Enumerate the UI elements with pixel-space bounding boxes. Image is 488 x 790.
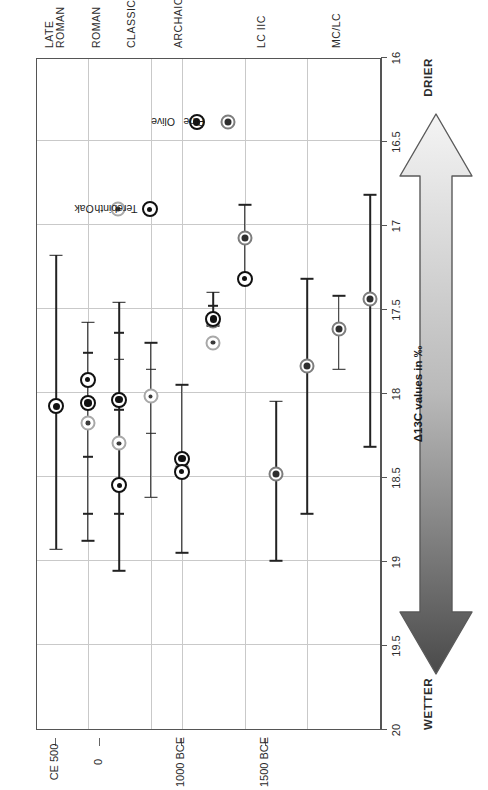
x-axis-tick [381, 477, 387, 478]
plot-area [36, 58, 381, 730]
data-marker-terebinth[interactable] [111, 477, 127, 493]
error-bar-cap [269, 401, 282, 403]
date-axis-label: CE 500 [48, 734, 60, 790]
error-bar-cap [81, 540, 94, 542]
error-bar-cap [301, 513, 314, 515]
x-axis-tick-label: 19.5 [390, 635, 402, 656]
legend-marker-pine [220, 114, 235, 129]
error-bar-inner-tick [114, 332, 124, 334]
error-bar [369, 195, 371, 447]
error-bar-cap [238, 204, 251, 206]
error-bar-inner-tick [114, 513, 124, 515]
data-marker-oak[interactable] [143, 389, 158, 404]
data-marker-terebinth[interactable] [80, 372, 96, 388]
error-bar-inner-tick [146, 369, 156, 371]
legend-label-olive: Olive [151, 116, 175, 128]
error-bar-inner-tick [83, 352, 93, 354]
data-marker-olive[interactable] [205, 311, 221, 327]
error-bar-cap [269, 560, 282, 562]
data-marker-olive[interactable] [48, 398, 64, 414]
x-axis-tick-label: 16.5 [390, 131, 402, 152]
error-bar-cap [364, 194, 377, 196]
x-axis-tick [381, 729, 387, 730]
legend-label-pine: Pine [183, 116, 204, 128]
period-label: LATEROMAN [44, 0, 66, 48]
error-bar-cap [113, 301, 126, 303]
error-bar-cap [332, 369, 345, 371]
error-bar [307, 279, 309, 514]
error-bar-cap [81, 322, 94, 324]
date-axis-label: 1500 BCE [258, 734, 270, 790]
error-bar-inner-tick [208, 305, 218, 307]
error-bar-cap [50, 254, 63, 256]
x-axis-tick-label: 19 [390, 556, 402, 568]
date-axis-label: 1000 BCE [174, 734, 186, 790]
error-bar-inner-tick [146, 433, 156, 435]
data-marker-oak[interactable] [80, 416, 95, 431]
data-marker-terebinth[interactable] [174, 464, 190, 480]
error-bar-cap [144, 342, 157, 344]
moisture-arrow-band: WETTER DRIER [392, 58, 480, 730]
period-label: ROMAN [91, 0, 102, 48]
x-axis-tick-label: 16 [390, 52, 402, 64]
error-bar-inner-tick [114, 359, 124, 361]
x-axis-tick [381, 561, 387, 562]
x-axis-tick [381, 225, 387, 226]
data-marker-pine[interactable] [237, 231, 252, 246]
error-bar-inner-tick [83, 456, 93, 458]
error-bar-cap [175, 384, 188, 386]
period-label: MC/LC [331, 0, 342, 48]
error-bar-cap [207, 291, 220, 293]
x-axis-tick [381, 645, 387, 646]
legend-label-terebinth: Terebinth [94, 203, 137, 215]
data-marker-oak[interactable] [112, 436, 127, 451]
legend-marker-terebinth [142, 201, 158, 217]
error-bar [150, 343, 152, 498]
x-axis-tick [381, 141, 387, 142]
data-marker-terebinth[interactable] [237, 271, 253, 287]
period-label: ARCHAIC [173, 0, 184, 48]
x-axis-tick-label: 17.5 [390, 299, 402, 320]
data-marker-oak[interactable] [206, 335, 221, 350]
x-axis-tick [381, 393, 387, 394]
error-bar-cap [113, 570, 126, 572]
data-marker-pine[interactable] [268, 466, 283, 481]
data-marker-pine[interactable] [331, 322, 346, 337]
wetter-drier-gradient-arrow [394, 110, 478, 678]
error-bar [87, 322, 89, 540]
period-label: LC IIC [256, 0, 267, 48]
error-bar-cap [364, 446, 377, 448]
x-axis-tick-label: 18.5 [390, 467, 402, 488]
x-axis-tick-label: 17 [390, 220, 402, 232]
error-bar-cap [144, 496, 157, 498]
error-bar-cap [175, 552, 188, 554]
data-marker-olive[interactable] [111, 392, 127, 408]
error-bar-cap [301, 278, 314, 280]
chart-stage: WETTER DRIER 2019.51918.51817.51716.516 … [0, 0, 488, 790]
error-bar-cap [332, 295, 345, 297]
period-label: CLASSICAL [126, 0, 137, 48]
x-axis-line [381, 58, 382, 730]
error-bar-inner-tick [83, 513, 93, 515]
date-axis-label: 0 [92, 734, 104, 790]
error-bar [275, 401, 277, 561]
legend-label-oak: Oak [75, 203, 94, 215]
x-axis-tick [381, 57, 387, 58]
data-marker-olive[interactable] [80, 395, 96, 411]
data-marker-pine[interactable] [300, 359, 315, 374]
data-marker-pine[interactable] [363, 291, 378, 306]
x-axis-tick [381, 309, 387, 310]
error-bar-cap [50, 548, 63, 550]
horizontal-gridline [245, 59, 246, 729]
error-bar-inner-tick [114, 409, 124, 411]
x-axis-tick-label: 18 [390, 388, 402, 400]
x-axis-title: Δ13C values in ‰ [412, 58, 424, 730]
x-axis-tick-label: 20 [390, 724, 402, 736]
